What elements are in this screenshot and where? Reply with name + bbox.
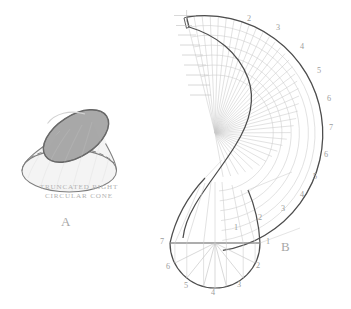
technical-drawing-figure: TRUNCATED RIGHT CIRCULAR CONE A (0, 0, 351, 309)
arc-number-label-0: 2 (247, 14, 251, 23)
development-construction-ticks (174, 10, 211, 95)
arc-number-label-6: 6 (324, 150, 328, 159)
arc-number-label-7: 5 (313, 172, 317, 181)
plan-number-label-4: 3 (237, 280, 241, 289)
arc-number-label-1: 3 (276, 23, 280, 32)
plan-number-label-2: 5 (184, 281, 188, 290)
arc-number-label-5: 7 (329, 123, 333, 132)
arc-number-label-9: 3 (281, 204, 285, 213)
arc-number-label-2: 4 (300, 42, 304, 51)
arc-number-label-11: 1 (234, 223, 238, 232)
plan-number-label-5: 2 (256, 261, 260, 270)
arc-number-label-8: 4 (300, 190, 304, 199)
arc-number-label-4: 6 (327, 94, 331, 103)
plan-number-label-6: 1 (266, 237, 270, 246)
plan-view-element-lines (175, 182, 255, 243)
plan-number-label-1: 6 (166, 262, 170, 271)
arc-number-label-3: 5 (317, 66, 321, 75)
plan-number-label-0: 7 (160, 237, 164, 246)
arc-number-label-10: 2 (258, 213, 262, 222)
panel-b-label: B (281, 239, 290, 255)
panel-b-development-drawing (0, 0, 351, 309)
plan-number-label-3: 4 (211, 288, 215, 297)
